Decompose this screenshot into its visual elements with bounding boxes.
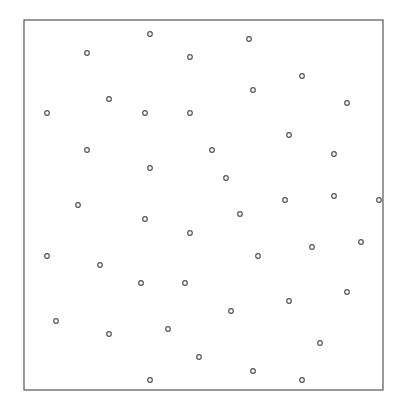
data-point xyxy=(377,198,382,203)
data-point xyxy=(359,240,364,245)
data-point xyxy=(107,332,112,337)
data-point xyxy=(183,281,188,286)
data-point xyxy=(143,111,148,116)
data-point xyxy=(188,55,193,60)
data-point xyxy=(229,309,234,314)
plot-frame xyxy=(24,20,383,390)
data-point xyxy=(143,217,148,222)
data-point xyxy=(283,198,288,203)
data-point xyxy=(148,378,153,383)
data-point xyxy=(256,254,261,259)
data-point xyxy=(310,245,315,250)
data-point xyxy=(345,290,350,295)
data-point xyxy=(345,101,350,106)
data-point xyxy=(287,133,292,138)
data-point xyxy=(332,194,337,199)
data-point xyxy=(45,254,50,259)
data-point xyxy=(188,111,193,116)
data-point xyxy=(45,111,50,116)
data-point xyxy=(210,148,215,153)
data-point xyxy=(98,263,103,268)
data-point xyxy=(148,166,153,171)
data-point xyxy=(139,281,144,286)
data-point xyxy=(247,37,252,42)
data-point xyxy=(287,299,292,304)
data-point xyxy=(166,327,171,332)
data-point xyxy=(332,152,337,157)
data-point xyxy=(300,378,305,383)
data-point xyxy=(251,369,256,374)
data-point xyxy=(318,341,323,346)
data-point xyxy=(238,212,243,217)
scatter-plot xyxy=(0,0,406,401)
data-point xyxy=(107,97,112,102)
data-point xyxy=(300,74,305,79)
data-points xyxy=(45,32,382,383)
data-point xyxy=(251,88,256,93)
data-point xyxy=(76,203,81,208)
data-point xyxy=(148,32,153,37)
data-point xyxy=(188,231,193,236)
data-point xyxy=(85,148,90,153)
data-point xyxy=(54,319,59,324)
data-point xyxy=(197,355,202,360)
data-point xyxy=(224,176,229,181)
data-point xyxy=(85,51,90,56)
